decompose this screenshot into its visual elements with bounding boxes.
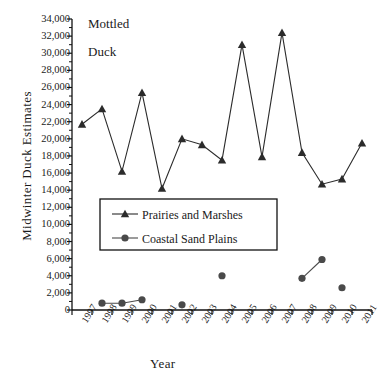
axis-lines: [67, 19, 372, 315]
legend-label-coastal-sand-plains: Coastal Sand Plains: [142, 232, 237, 247]
data-point-marker: [98, 300, 105, 307]
series-lines: [82, 33, 362, 304]
data-point-marker: [298, 275, 305, 282]
data-point-marker: [258, 153, 266, 161]
data-point-marker: [358, 139, 366, 147]
series-line: [302, 260, 322, 279]
data-point-marker: [138, 296, 145, 303]
data-point-marker: [118, 300, 125, 307]
series-line: [82, 33, 362, 189]
data-point-marker: [318, 256, 325, 263]
data-point-marker: [178, 301, 185, 308]
data-point-marker: [338, 284, 345, 291]
chart-figure: Midwinter Duck Estimates Year Mottled Du…: [0, 0, 386, 384]
data-point-marker: [218, 272, 225, 279]
data-point-marker: [118, 167, 126, 175]
data-point-marker: [278, 28, 286, 36]
data-point-marker: [178, 135, 186, 143]
plot-area: [0, 0, 386, 384]
data-point-marker: [218, 156, 226, 164]
legend-label-prairies-and-marshes: Prairies and Marshes: [142, 208, 243, 223]
data-point-marker: [298, 148, 306, 156]
legend-marker-coastal-sand-plains: [121, 234, 128, 241]
data-point-marker: [238, 40, 246, 48]
data-point-marker: [338, 175, 346, 183]
data-point-marker: [138, 88, 146, 96]
data-point-marker: [78, 120, 86, 128]
data-point-marker: [98, 105, 106, 113]
data-point-marker: [158, 184, 166, 192]
